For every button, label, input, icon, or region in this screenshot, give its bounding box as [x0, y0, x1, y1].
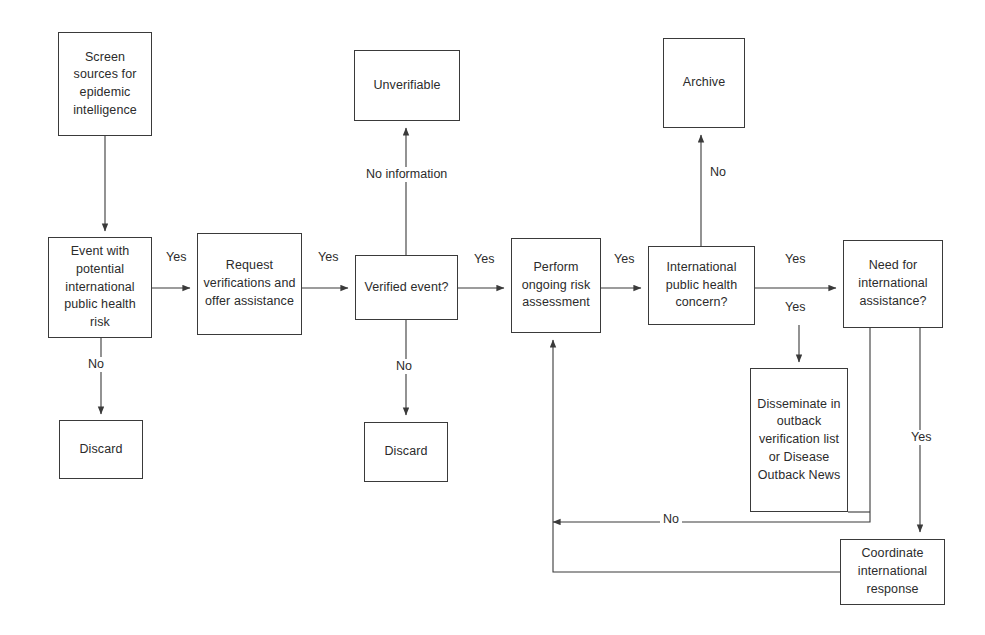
- node-perform-risk-assessment[interactable]: Perform ongoing risk assessment: [511, 238, 601, 333]
- node-screen-sources-label: Screen sources for epidemic intelligence: [63, 49, 147, 120]
- edge-label-yes-perform-to-concern: Yes: [611, 252, 637, 267]
- node-unverifiable-label: Unverifiable: [359, 77, 455, 95]
- edge-label-no-verified-to-discard: No: [393, 359, 415, 374]
- node-international-concern-label: International public health concern?: [653, 259, 750, 312]
- node-disseminate-label: Disseminate in outback verification list…: [755, 396, 843, 485]
- edge-label-yes-concern-to-need: Yes: [782, 252, 808, 267]
- edge-label-yes-verified-to-perform: Yes: [471, 252, 497, 267]
- edge-label-yes-request-to-verified: Yes: [315, 250, 341, 265]
- edge-label-yes-event-to-request: Yes: [163, 250, 189, 265]
- flowchart-canvas: Screen sources for epidemic intelligence…: [0, 0, 985, 635]
- node-disseminate[interactable]: Disseminate in outback verification list…: [750, 368, 848, 512]
- node-discard-primary[interactable]: Discard: [59, 420, 143, 479]
- node-discard-secondary[interactable]: Discard: [364, 422, 448, 482]
- node-need-international-assistance[interactable]: Need for international assistance?: [843, 240, 943, 328]
- node-international-concern[interactable]: International public health concern?: [648, 246, 755, 325]
- node-unverifiable[interactable]: Unverifiable: [354, 50, 460, 121]
- node-event-with-potential-risk[interactable]: Event with potential international publi…: [48, 237, 152, 338]
- edge-label-no-concern-to-archive: No: [707, 165, 729, 180]
- edge-label-no-information: No information: [363, 167, 450, 182]
- edge-label-yes-need-to-coordinate: Yes: [908, 430, 934, 445]
- node-verified-event[interactable]: Verified event?: [355, 255, 458, 320]
- node-archive[interactable]: Archive: [663, 38, 745, 128]
- node-coordinate-response[interactable]: Coordinate international response: [840, 539, 945, 605]
- node-screen-sources[interactable]: Screen sources for epidemic intelligence: [58, 32, 152, 136]
- edge-label-no-event-to-discard: No: [85, 357, 107, 372]
- node-archive-label: Archive: [668, 74, 740, 92]
- node-request-verifications[interactable]: Request verifications and offer assistan…: [197, 233, 302, 335]
- edge-label-yes-concern-to-disseminate: Yes: [782, 300, 808, 315]
- node-discard-secondary-label: Discard: [369, 443, 443, 461]
- node-coordinate-response-label: Coordinate international response: [845, 545, 940, 598]
- node-event-with-potential-risk-label: Event with potential international publi…: [53, 243, 147, 332]
- node-need-international-assistance-label: Need for international assistance?: [848, 257, 938, 310]
- node-request-verifications-label: Request verifications and offer assistan…: [202, 257, 297, 310]
- node-verified-event-label: Verified event?: [360, 279, 453, 297]
- edge-label-no-disseminate-loop: No: [660, 512, 682, 527]
- node-discard-primary-label: Discard: [64, 441, 138, 459]
- node-perform-risk-assessment-label: Perform ongoing risk assessment: [516, 259, 596, 312]
